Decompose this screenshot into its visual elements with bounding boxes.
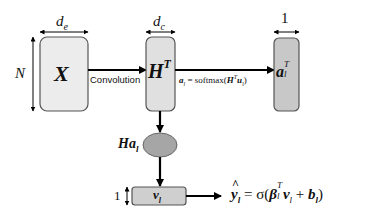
convolution-label: Convolution bbox=[90, 75, 140, 85]
n-label: N bbox=[15, 66, 25, 81]
attention-vector-label: aTl bbox=[276, 64, 290, 80]
softmax-formula-label: al = softmax(HTul) bbox=[179, 76, 247, 85]
x-label: X bbox=[54, 63, 69, 85]
output-formula-label: y^l = σ(βTlvl + bl) bbox=[231, 187, 323, 202]
v-label: vl bbox=[153, 188, 161, 201]
dc-label: dc bbox=[153, 14, 165, 29]
v-height-label: 1 bbox=[114, 189, 121, 202]
one-width-label: 1 bbox=[281, 11, 289, 26]
ha-label: Hal bbox=[118, 137, 138, 151]
diagram-canvas bbox=[0, 0, 370, 217]
de-label: de bbox=[56, 14, 68, 29]
ht-label: HT bbox=[148, 61, 171, 81]
ha-ellipse-node bbox=[143, 133, 177, 157]
